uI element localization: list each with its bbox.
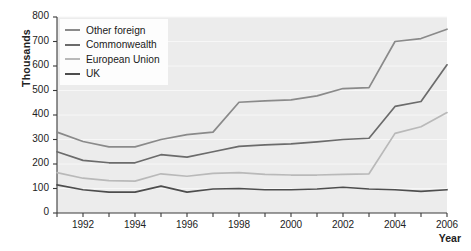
y-tick-label: 500 (19, 84, 49, 95)
legend-item-label: European Union (86, 54, 160, 65)
legend-item-label: UK (86, 68, 100, 79)
y-tick-label: 200 (19, 157, 49, 168)
chart-legend: Other foreignCommonwealthEuropean UnionU… (60, 19, 168, 85)
x-tick-label: 2004 (375, 219, 415, 230)
y-tick-label: 300 (19, 133, 49, 144)
legend-item-label: Other foreign (86, 25, 145, 36)
x-tick-label: 2006 (427, 219, 467, 230)
legend-item-uk: UK (65, 67, 160, 82)
legend-line-swatch-icon (65, 73, 80, 75)
legend-item-other-foreign: Other foreign (65, 23, 160, 38)
y-tick-label: 800 (19, 10, 49, 21)
y-tick-label: 400 (19, 108, 49, 119)
y-tick-label: 100 (19, 182, 49, 193)
chart-figure: Thousands Year 0100200300400500600700800… (0, 0, 471, 251)
y-tick-label: 0 (19, 206, 49, 217)
legend-item-label: Commonwealth (86, 39, 157, 50)
x-tick-label: 1994 (115, 219, 155, 230)
x-tick-label: 1998 (219, 219, 259, 230)
legend-item-european-union: European Union (65, 52, 160, 67)
x-tick-label: 2002 (323, 219, 363, 230)
legend-line-swatch-icon (65, 58, 80, 60)
legend-line-swatch-icon (65, 29, 80, 31)
y-tick-label: 600 (19, 59, 49, 70)
x-tick-label: 1996 (167, 219, 207, 230)
legend-item-commonwealth: Commonwealth (65, 38, 160, 53)
x-tick-label: 1992 (63, 219, 103, 230)
x-tick-label: 2000 (271, 219, 311, 230)
y-tick-label: 700 (19, 35, 49, 46)
legend-line-swatch-icon (65, 44, 80, 46)
x-axis-title: Year (439, 232, 461, 244)
